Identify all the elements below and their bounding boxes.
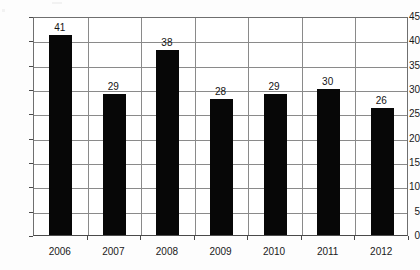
bar-value-label: 29 [254,82,294,92]
category-separator [195,18,196,235]
bar-chart: 051015202530354045 41293828293026 200620… [0,0,420,270]
x-axis-tick-mark [194,236,195,240]
bar [49,35,72,235]
bar-value-label: 30 [308,77,348,87]
x-axis-category-label: 2010 [249,246,299,257]
bar [317,89,340,235]
bar [156,50,179,235]
bar-value-label: 29 [93,82,133,92]
x-axis-category-label: 2011 [303,246,353,257]
x-axis-category-label: 2007 [88,246,138,257]
scan-artifact [52,2,62,4]
category-separator [141,18,142,235]
y-axis-tick-mark [29,236,33,237]
bar-value-label: 41 [40,23,80,33]
x-axis-category-label: 2006 [35,246,85,257]
category-separator [355,18,356,235]
plot-area [33,17,408,236]
bar-value-label: 38 [147,38,187,48]
category-separator [302,18,303,235]
x-axis-category-label: 2008 [142,246,192,257]
bar [103,94,126,235]
bar [210,99,233,235]
x-axis-category-label: 2009 [196,246,246,257]
grid-line [34,67,407,68]
category-separator [248,18,249,235]
category-separator [88,18,89,235]
x-axis-tick-mark [247,236,248,240]
scan-artifact [2,9,5,12]
bar [371,108,394,235]
x-axis-tick-mark [354,236,355,240]
bar-value-label: 28 [201,87,241,97]
x-axis-tick-mark [140,236,141,240]
x-axis-tick-mark [87,236,88,240]
x-axis-tick-mark [408,236,409,240]
x-axis-category-label: 2012 [356,246,406,257]
x-axis-tick-mark [301,236,302,240]
bar [264,94,287,235]
bar-value-label: 26 [361,96,401,106]
grid-line [34,42,407,43]
